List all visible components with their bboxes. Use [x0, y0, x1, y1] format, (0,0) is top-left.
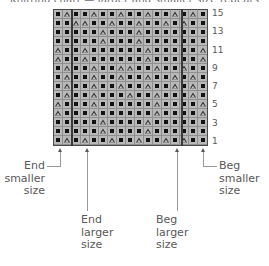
repeat-rule-end-larger — [71, 9, 73, 146]
filled-square-stitch-icon — [137, 66, 141, 70]
open-triangle-stitch-icon — [145, 120, 151, 125]
filled-square-stitch-icon — [65, 21, 69, 25]
filled-square-stitch-icon — [83, 120, 87, 124]
filled-square-stitch-icon — [92, 57, 96, 61]
open-triangle-stitch-icon — [91, 111, 97, 116]
chart-cell — [162, 64, 171, 73]
filled-square-stitch-icon — [128, 39, 132, 43]
filled-square-stitch-icon — [191, 138, 195, 142]
filled-square-stitch-icon — [110, 30, 114, 34]
chart-cell — [72, 46, 81, 55]
filled-square-stitch-icon — [191, 120, 195, 124]
chart-cell — [99, 46, 108, 55]
chart-cell — [126, 82, 135, 91]
filled-square-stitch-icon — [56, 120, 60, 124]
filled-square-stitch-icon — [164, 111, 168, 115]
chart-cell — [81, 10, 90, 19]
arrow-end-larger — [85, 148, 89, 152]
chart-cell — [99, 37, 108, 46]
chart-cell — [153, 19, 162, 28]
chart-cell — [54, 100, 63, 109]
chart-cell — [135, 55, 144, 64]
chart-cell — [171, 10, 180, 19]
chart-cell — [108, 19, 117, 28]
filled-square-stitch-icon — [128, 84, 132, 88]
chart-title: Knitting chart — larger and smaller size… — [0, 0, 269, 2]
chart-cell — [153, 91, 162, 100]
chart-cell — [198, 82, 207, 91]
filled-square-stitch-icon — [137, 12, 141, 16]
chart-cell — [126, 91, 135, 100]
chart-cell — [162, 118, 171, 127]
open-triangle-stitch-icon — [172, 84, 178, 89]
filled-square-stitch-icon — [65, 111, 69, 115]
callout-beg-smaller-line1: Beg — [219, 160, 269, 173]
filled-square-stitch-icon — [83, 102, 87, 106]
chart-cell — [90, 28, 99, 37]
chart-cell — [189, 37, 198, 46]
filled-square-stitch-icon — [74, 39, 78, 43]
chart-cell — [81, 127, 90, 136]
chart-cell — [198, 91, 207, 100]
chart-cell — [162, 127, 171, 136]
open-triangle-stitch-icon — [64, 84, 70, 89]
chart-cell — [198, 37, 207, 46]
filled-square-stitch-icon — [137, 48, 141, 52]
chart-cell — [108, 64, 117, 73]
open-triangle-stitch-icon — [64, 75, 70, 80]
filled-square-stitch-icon — [56, 21, 60, 25]
filled-square-stitch-icon — [56, 39, 60, 43]
filled-square-stitch-icon — [128, 129, 132, 133]
chart-cell — [90, 55, 99, 64]
filled-square-stitch-icon — [74, 75, 78, 79]
chart-cell — [126, 118, 135, 127]
open-triangle-stitch-icon — [163, 21, 169, 26]
filled-square-stitch-icon — [164, 39, 168, 43]
chart-cell — [72, 100, 81, 109]
filled-square-stitch-icon — [92, 30, 96, 34]
chart-cell — [162, 10, 171, 19]
filled-square-stitch-icon — [191, 66, 195, 70]
chart-cell — [108, 127, 117, 136]
open-triangle-stitch-icon — [118, 66, 124, 71]
filled-square-stitch-icon — [65, 30, 69, 34]
open-triangle-stitch-icon — [145, 129, 151, 134]
chart-cell — [108, 82, 117, 91]
open-triangle-stitch-icon — [55, 111, 61, 116]
filled-square-stitch-icon — [92, 138, 96, 142]
filled-square-stitch-icon — [173, 30, 177, 34]
open-triangle-stitch-icon — [73, 21, 79, 26]
chart-cell — [171, 91, 180, 100]
chart-cell — [90, 73, 99, 82]
chart-cell — [72, 55, 81, 64]
chart-cell — [189, 100, 198, 109]
filled-square-stitch-icon — [155, 12, 159, 16]
filled-square-stitch-icon — [119, 138, 123, 142]
filled-square-stitch-icon — [173, 57, 177, 61]
chart-cell — [90, 109, 99, 118]
open-triangle-stitch-icon — [64, 66, 70, 71]
filled-square-stitch-icon — [137, 129, 141, 133]
open-triangle-stitch-icon — [190, 84, 196, 89]
filled-square-stitch-icon — [119, 57, 123, 61]
filled-square-stitch-icon — [74, 12, 78, 16]
filled-square-stitch-icon — [164, 57, 168, 61]
row-number-label: 7 — [212, 82, 218, 91]
filled-square-stitch-icon — [146, 102, 150, 106]
filled-square-stitch-icon — [201, 30, 205, 34]
chart-cell — [171, 73, 180, 82]
filled-square-stitch-icon — [119, 48, 123, 52]
chart-cell — [144, 136, 153, 145]
chart-cell — [99, 91, 108, 100]
chart-cell — [90, 19, 99, 28]
filled-square-stitch-icon — [83, 75, 87, 79]
filled-square-stitch-icon — [164, 102, 168, 106]
chart-cell — [72, 73, 81, 82]
chart-cell — [117, 55, 126, 64]
filled-square-stitch-icon — [173, 129, 177, 133]
filled-square-stitch-icon — [173, 138, 177, 142]
filled-square-stitch-icon — [128, 30, 132, 34]
chart-cell — [108, 46, 117, 55]
chart-cell — [81, 136, 90, 145]
chart-diagram: Knitting chart — larger and smaller size… — [0, 0, 269, 266]
